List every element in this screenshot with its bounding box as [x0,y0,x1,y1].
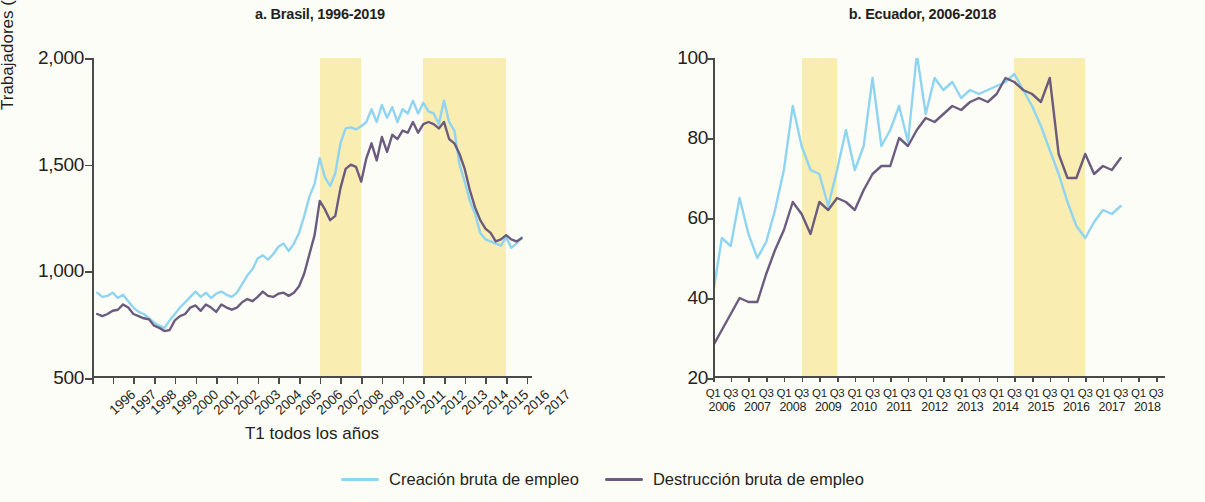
x-tick [278,378,280,384]
x-tick [855,378,857,382]
x-tick [961,378,963,382]
panel-brasil: a. Brasil, 1996-2019 Trabajadores (milla… [0,0,640,460]
y-tick [85,58,92,60]
x-tick [890,378,892,382]
x-tick [485,378,487,384]
x-tick [423,378,425,384]
panel-b-y-axis [713,58,715,378]
y-tick-label: 1,500 [38,154,84,176]
y-tick [706,298,713,300]
x-tick [1085,378,1087,382]
x-tick [1068,378,1070,382]
y-tick [85,165,92,167]
y-tick-label: 100 [677,47,708,69]
x-tick [748,378,750,382]
x-tick [216,378,218,384]
y-tick-label: 2,000 [38,47,84,69]
legend-swatch-destruction-icon [605,478,643,481]
series-line [97,122,521,331]
x-tick [1156,378,1158,382]
panel-b-y-tick-labels: 20406080100 [648,58,708,378]
x-tick [908,378,910,382]
x-tick [802,378,804,382]
panel-a-series-lines [92,58,532,378]
panel-a-y-axis-title: Trabajadores (millares) [0,0,18,110]
x-tick [997,378,999,382]
x-tick-quarters-label: Q1 Q3 [1125,386,1169,400]
x-tick [766,378,768,382]
x-tick [133,378,135,384]
x-tick [873,378,875,382]
panel-a-plot-area [92,58,532,378]
legend-item-destruction: Destrucción bruta de empleo [605,470,864,489]
legend-item-creation: Creación bruta de empleo [341,470,579,489]
legend-label-destruction: Destrucción bruta de empleo [653,470,864,489]
panel-b-series-lines [713,58,1165,378]
y-tick [85,378,92,380]
x-tick [237,378,239,384]
x-tick [1138,378,1140,382]
panel-a-y-tick-labels: 5001,0001,5002,000 [24,58,84,378]
y-tick-label: 80 [687,127,708,149]
x-tick [943,378,945,382]
panel-ecuador: b. Ecuador, 2006-2018 20406080100 Q1 Q32… [640,0,1205,460]
panel-b-x-axis [713,376,1165,378]
x-tick [299,378,301,384]
y-tick [85,271,92,273]
x-tick [258,378,260,384]
y-tick [706,218,713,220]
series-line [713,58,1121,294]
x-tick [465,378,467,384]
panel-a-plot [92,58,532,378]
x-tick [113,378,115,384]
x-tick [1014,378,1016,382]
y-tick [706,138,713,140]
y-tick-label: 60 [687,207,708,229]
x-tick [175,378,177,384]
x-tick [196,378,198,384]
y-tick-label: 1,000 [38,260,84,282]
panel-a-title: a. Brasil, 1996-2019 [0,6,640,22]
figure-root: a. Brasil, 1996-2019 Trabajadores (milla… [0,0,1205,502]
x-tick [1103,378,1105,382]
x-tick [340,378,342,384]
legend-label-creation: Creación bruta de empleo [389,470,579,489]
x-tick [154,378,156,384]
x-tick [784,378,786,382]
panel-b-plot-area [713,58,1165,378]
y-tick [706,58,713,60]
legend-swatch-creation-icon [341,478,379,481]
x-tick [382,378,384,384]
x-tick [1121,378,1123,382]
chart-legend: Creación bruta de empleo Destrucción bru… [0,470,1205,489]
panel-b-title: b. Ecuador, 2006-2018 [640,6,1205,22]
x-tick [837,378,839,382]
y-tick-label: 40 [687,287,708,309]
x-tick [361,378,363,384]
x-tick [1050,378,1052,382]
x-tick-year-label: 2018 [1125,400,1169,415]
y-tick [706,378,713,380]
x-tick [506,378,508,384]
panel-b-plot [713,58,1165,378]
x-tick [731,378,733,382]
x-tick [403,378,405,384]
x-tick-group: Q1 Q32018 [1125,386,1169,415]
x-tick [1032,378,1034,382]
x-tick [444,378,446,384]
y-tick-label: 500 [53,367,84,389]
x-tick [926,378,928,382]
x-tick [713,378,715,382]
x-tick [527,378,529,384]
x-tick [320,378,322,384]
panel-a-x-axis-title: T1 todos los años [92,424,532,444]
series-line [97,101,521,328]
x-tick [92,378,94,384]
x-tick [979,378,981,382]
x-tick [819,378,821,382]
panel-a-y-axis [92,58,94,378]
